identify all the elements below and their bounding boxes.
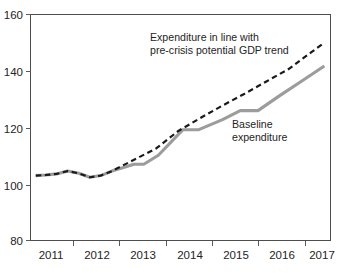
x-tick-label-2017: 2017 [309, 249, 335, 261]
y-tick-label-160: 160 [4, 9, 23, 21]
annotation-baseline-line-2: expenditure [232, 131, 287, 143]
x-tick-label-2015: 2015 [223, 249, 249, 261]
y-tick-label-140: 140 [4, 66, 23, 78]
annotation-baseline-line-1: Baseline [232, 118, 273, 130]
y-axis-ticks [26, 15, 31, 241]
y-tick-label-80: 80 [10, 235, 23, 247]
x-axis-ticks [74, 241, 306, 246]
y-tick-label-100: 100 [4, 180, 23, 192]
x-tick-label-2012: 2012 [84, 249, 110, 261]
line-chart: 160 140 120 100 80 2011 2012 2013 2014 2… [0, 0, 343, 273]
y-tick-label-120: 120 [4, 123, 23, 135]
x-tick-label-2014: 2014 [177, 249, 203, 261]
chart-container: 160 140 120 100 80 2011 2012 2013 2014 2… [0, 0, 343, 273]
x-tick-label-2016: 2016 [269, 249, 295, 261]
x-tick-label-2011: 2011 [39, 249, 64, 261]
y-axis-tick-labels: 160 140 120 100 80 [4, 9, 23, 247]
annotation-trend-line-1: Expenditure in line with [150, 31, 259, 43]
annotation-trend-line-2: pre-crisis potential GDP trend [150, 44, 289, 56]
x-tick-label-2013: 2013 [130, 249, 156, 261]
x-axis-tick-labels: 2011 2012 2013 2014 2015 2016 2017 [39, 249, 335, 261]
